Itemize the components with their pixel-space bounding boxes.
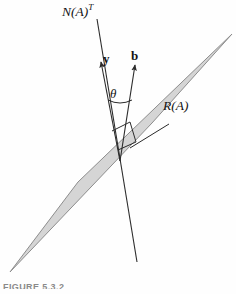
diagram-canvas (0, 0, 236, 294)
range-label: R(A) (163, 99, 188, 113)
vector-y-arrow (101, 62, 120, 161)
figure-container: N(A)T y b θ R(A) FIGURE 5.3.2 (0, 0, 236, 294)
angle-theta-label: θ (110, 87, 116, 100)
null-space-label-text: N(A) (62, 4, 88, 19)
vector-y-label: y (103, 52, 110, 65)
null-space-transpose-superscript: T (88, 2, 93, 12)
vector-b-label: b (131, 49, 138, 62)
null-space-label: N(A)T (62, 3, 93, 18)
figure-caption: FIGURE 5.3.2 (3, 283, 64, 289)
